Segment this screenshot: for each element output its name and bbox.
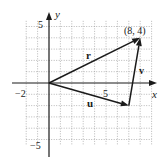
vector-u bbox=[49, 83, 121, 103]
vector-label-r: r bbox=[86, 49, 91, 61]
vector-v bbox=[129, 46, 139, 106]
vectors bbox=[49, 38, 142, 107]
tick-label-y-5: 5 bbox=[38, 19, 43, 30]
vector-u-arrowhead-icon bbox=[120, 101, 129, 107]
point-label: (8, 4) bbox=[124, 25, 146, 37]
vector-label-v: v bbox=[139, 65, 144, 76]
y-axis-label: y bbox=[54, 8, 60, 20]
tick-label-y-neg5: −5 bbox=[30, 140, 41, 151]
y-axis-arrow-icon bbox=[46, 12, 52, 20]
vector-r bbox=[49, 41, 133, 83]
x-axis-arrow-icon bbox=[149, 80, 157, 86]
vector-label-u: u bbox=[87, 97, 93, 109]
vector-diagram: x y −2 5 5 −5 (8, 4) r u v bbox=[0, 0, 164, 163]
tick-label-x-5: 5 bbox=[103, 88, 108, 99]
x-axis-label: x bbox=[151, 88, 157, 100]
tick-label-x-neg2: −2 bbox=[15, 88, 26, 99]
